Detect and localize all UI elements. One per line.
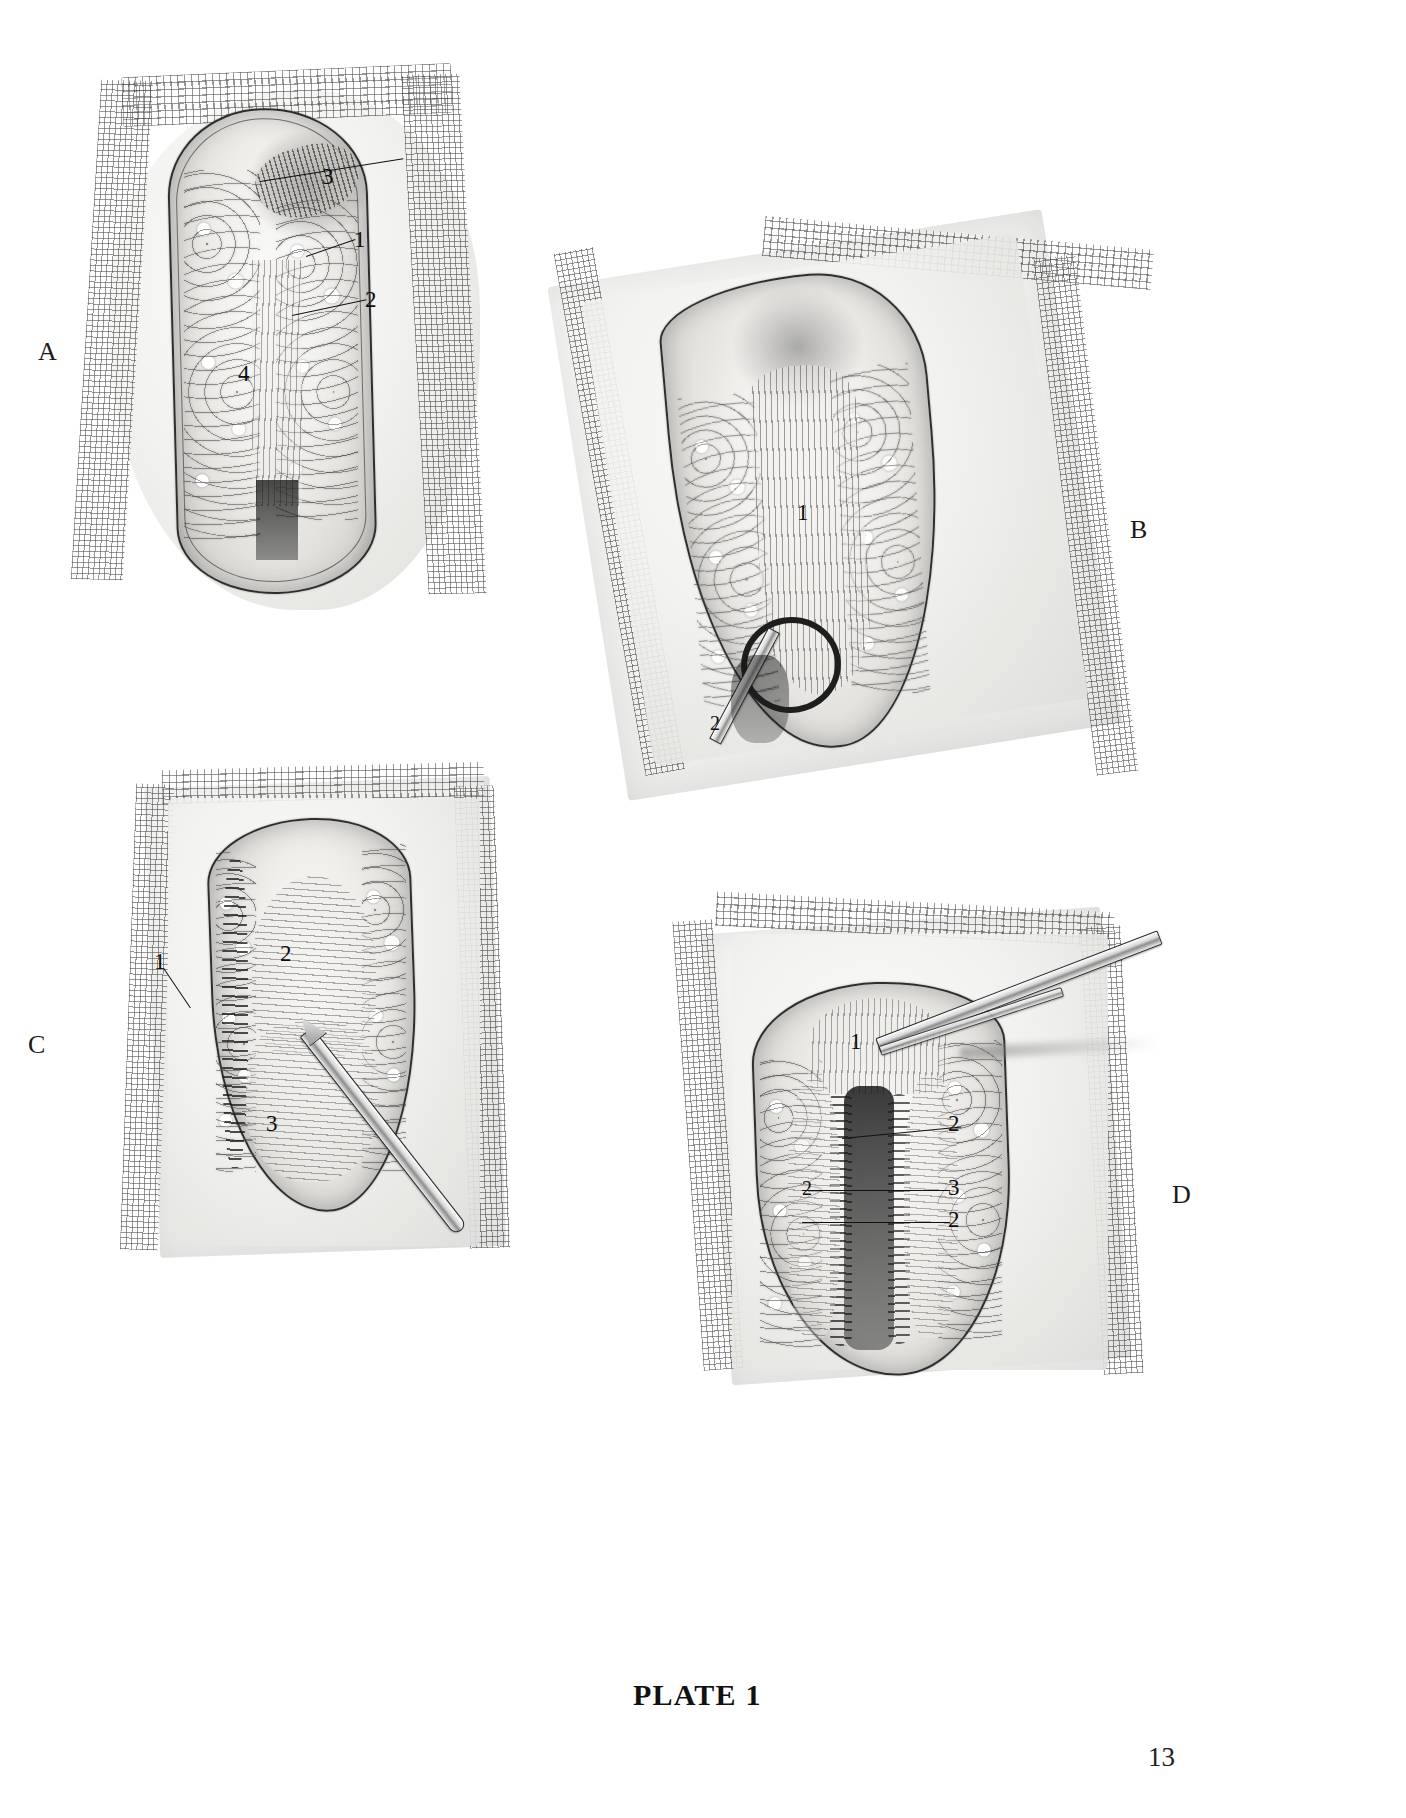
panel-a-label-3: 3 [322,165,334,188]
panel-d-label-2-lower: 2 [948,1208,960,1231]
panel-c: C 1 2 3 [110,760,540,1290]
panel-c-fascial-edge [222,856,248,1168]
panel-d-muscle-left [788,1080,840,1340]
panel-b: B 1 2 [545,225,1165,805]
panel-d-label-2-upper: 2 [948,1112,960,1135]
panel-a-label-4: 4 [238,362,250,385]
panel-d: D 1 2 3 2 2 [660,890,1220,1420]
panel-a-label-2: 2 [365,288,377,311]
panel-letter-b: B [1130,515,1148,545]
panel-b-label-2: 2 [710,713,720,733]
page-number: 13 [1148,1742,1175,1773]
panel-d-leader-3 [802,1190,950,1191]
plate-page: A 3 1 2 4 B 1 2 [0,0,1406,1818]
panel-a-deep-incision [256,480,298,560]
panel-b-label-1: 1 [797,501,809,524]
panel-c-label-2: 2 [280,942,292,965]
panel-c-label-1: 1 [154,950,166,973]
panel-letter-a: A [38,337,57,367]
panel-d-label-1: 1 [850,1030,862,1053]
panel-a: A 3 1 2 4 [80,60,500,620]
panel-letter-d: D [1172,1180,1191,1210]
panel-d-label-2-inline: 2 [802,1178,812,1198]
panel-a-fat-left [184,170,260,540]
plate-caption: PLATE 1 [633,1678,762,1712]
panel-c-label-3: 3 [266,1112,278,1135]
panel-letter-c: C [28,1030,46,1060]
panel-a-label-1: 1 [354,228,366,251]
panel-d-leader-2b [802,1222,950,1223]
panel-d-label-3: 3 [948,1176,960,1199]
panel-b-inferior-angle [731,655,789,743]
panel-a-linea-alba [252,260,302,506]
